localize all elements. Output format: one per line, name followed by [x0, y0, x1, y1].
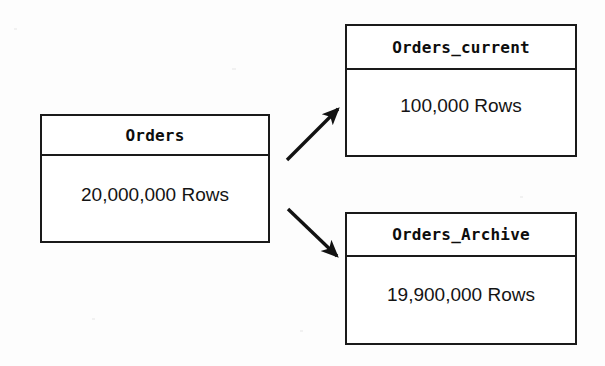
entity-body-orders-current: 100,000 Rows: [347, 70, 575, 155]
entity-box-orders[interactable]: Orders 20,000,000 Rows: [40, 114, 270, 243]
scan-speckle: [232, 68, 236, 70]
entity-header-orders: Orders: [42, 116, 268, 156]
connector-orders-to-current[interactable]: [287, 109, 338, 160]
diagram-canvas: Orders 20,000,000 Rows Orders_current 10…: [0, 0, 605, 366]
entity-box-orders-current[interactable]: Orders_current 100,000 Rows: [345, 24, 577, 157]
scan-speckle: [300, 330, 303, 332]
entity-header-orders-archive: Orders_Archive: [347, 214, 575, 257]
entity-header-orders-current: Orders_current: [347, 26, 575, 70]
scan-speckle: [14, 28, 17, 30]
entity-body-orders-archive: 19,900,000 Rows: [347, 257, 575, 343]
scan-speckle: [520, 196, 523, 198]
connector-orders-to-archive[interactable]: [288, 209, 337, 256]
scan-speckle: [92, 318, 95, 320]
entity-body-orders: 20,000,000 Rows: [42, 156, 268, 241]
entity-box-orders-archive[interactable]: Orders_Archive 19,900,000 Rows: [345, 212, 577, 345]
